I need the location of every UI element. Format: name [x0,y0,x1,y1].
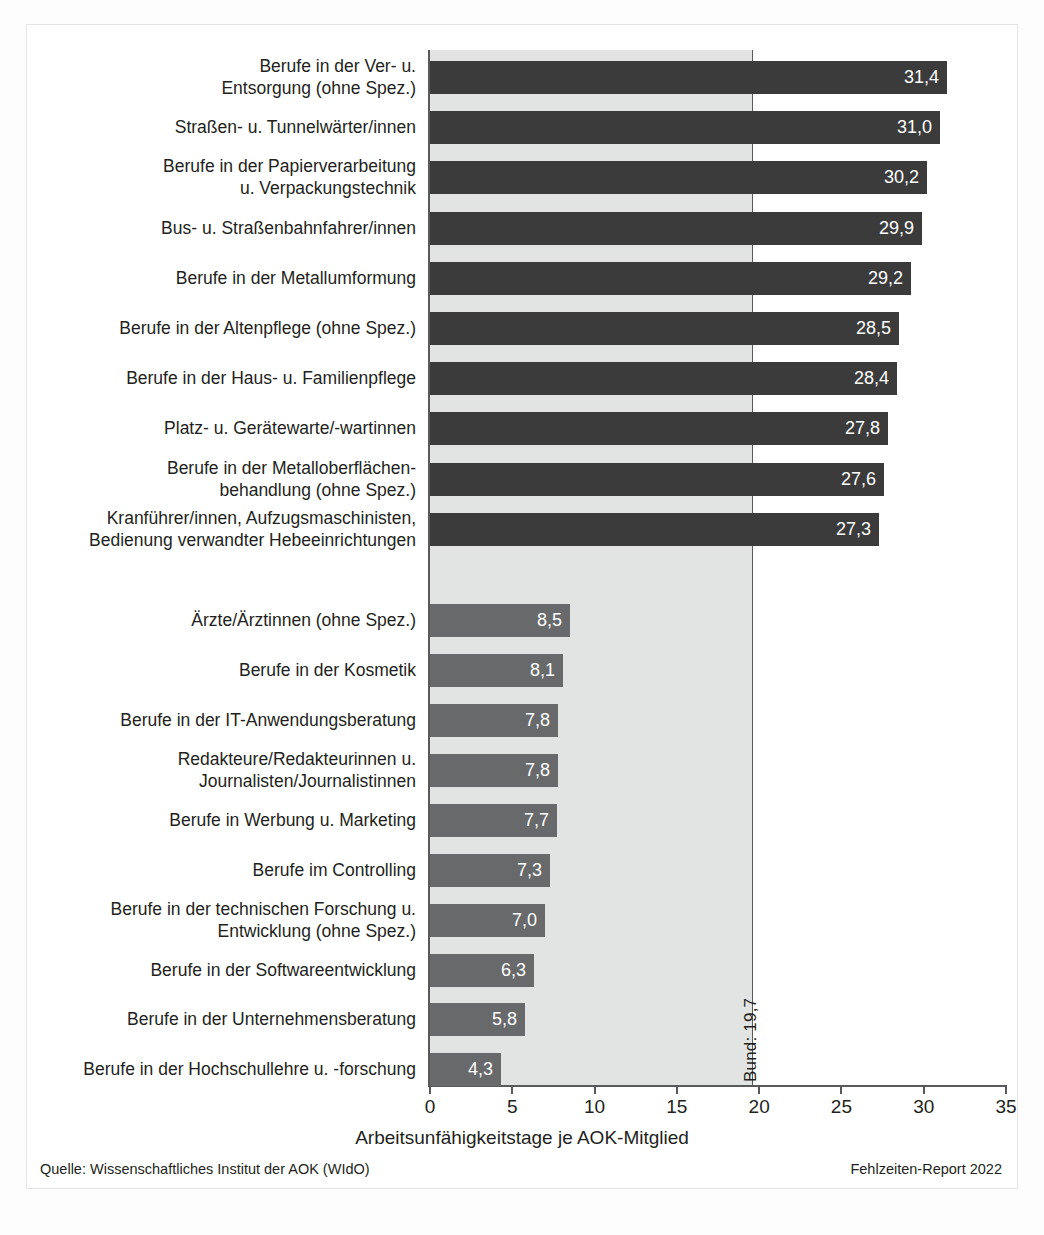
bar: 7,8 [430,754,558,787]
bar: 30,2 [430,161,927,194]
x-axis-tick-label: 10 [575,1096,615,1118]
bar-value-label: 31,4 [904,61,939,94]
bar: 27,6 [430,463,884,496]
bar-value-label: 8,1 [530,654,555,687]
bar-row: Berufe in der Altenpflege (ohne Spez.)28… [0,312,1044,356]
x-axis-tick-label: 30 [904,1096,944,1118]
bar: 28,4 [430,362,897,395]
bar-category-label: Berufe in der Haus- u. Familienpflege [0,367,416,390]
x-axis-tick [1005,1085,1007,1094]
bar: 27,8 [430,412,888,445]
x-axis-tick [676,1085,678,1094]
bar: 28,5 [430,312,899,345]
bar: 31,0 [430,111,940,144]
bar: 6,3 [430,954,534,987]
x-axis-tick-label: 20 [739,1096,779,1118]
bar-row: Berufe in der technischen Forschung u. E… [0,904,1044,948]
bar-row: Berufe in der Softwareentwicklung6,3 [0,954,1044,998]
bar-category-label: Platz- u. Gerätewarte/-wartinnen [0,417,416,440]
bar: 29,2 [430,262,911,295]
x-axis-tick [511,1085,513,1094]
bar: 31,4 [430,61,947,94]
bar-category-label: Redakteure/Redakteurinnen u. Journaliste… [0,748,416,793]
x-axis-tick [840,1085,842,1094]
bar-row: Berufe in der Ver- u. Entsorgung (ohne S… [0,61,1044,105]
bar-category-label: Berufe in der Altenpflege (ohne Spez.) [0,317,416,340]
bar-row: Berufe in der Haus- u. Familienpflege28,… [0,362,1044,406]
x-axis-tick-label: 25 [821,1096,861,1118]
bar-category-label: Berufe in der Metalloberflächen- behandl… [0,457,416,502]
bar-value-label: 7,8 [525,704,550,737]
bar-value-label: 5,8 [492,1003,517,1036]
x-axis-tick [594,1085,596,1094]
bar-row: Berufe in der Metallumformung29,2 [0,262,1044,306]
bar-row: Kranführer/innen, Aufzugsmaschinisten, B… [0,513,1044,557]
bar-category-label: Berufe in der Unternehmensberatung [0,1008,416,1031]
bar-row: Berufe in der Unternehmensberatung5,8 [0,1003,1044,1047]
bar-row: Ärzte/Ärztinnen (ohne Spez.)8,5 [0,604,1044,648]
bar: 8,5 [430,604,570,637]
bar-row: Redakteure/Redakteurinnen u. Journaliste… [0,754,1044,798]
bar-category-label: Bus- u. Straßenbahnfahrer/innen [0,217,416,240]
bar-row: Straßen- u. Tunnelwärter/innen31,0 [0,111,1044,155]
bar-value-label: 31,0 [897,111,932,144]
bar-category-label: Straßen- u. Tunnelwärter/innen [0,116,416,139]
bar-value-label: 4,3 [468,1053,493,1086]
bar-category-label: Berufe in der Kosmetik [0,659,416,682]
x-axis-tick [758,1085,760,1094]
bar: 29,9 [430,212,922,245]
bar-category-label: Berufe in der IT-Anwendungsberatung [0,709,416,732]
bar-category-label: Berufe in Werbung u. Marketing [0,809,416,832]
bar-row: Berufe in der Hochschullehre u. -forschu… [0,1053,1044,1097]
bar: 5,8 [430,1003,525,1036]
bar-value-label: 28,5 [856,312,891,345]
x-axis-tick [923,1085,925,1094]
x-axis-tick-label: 5 [492,1096,532,1118]
bar-category-label: Berufe in der Softwareentwicklung [0,959,416,982]
bar-row: Berufe in der IT-Anwendungsberatung7,8 [0,704,1044,748]
bar: 4,3 [430,1053,501,1086]
x-axis-tick-label: 0 [410,1096,450,1118]
bar-value-label: 7,3 [517,854,542,887]
bar-value-label: 7,7 [524,804,549,837]
bar-category-label: Ärzte/Ärztinnen (ohne Spez.) [0,609,416,632]
x-axis-tick-label: 35 [986,1096,1026,1118]
bar: 27,3 [430,513,879,546]
bar-row: Berufe in der Metalloberflächen- behandl… [0,463,1044,507]
bar-row: Berufe in der Kosmetik8,1 [0,654,1044,698]
x-axis-tick [429,1085,431,1094]
bar-value-label: 27,6 [841,463,876,496]
bar-value-label: 7,8 [525,754,550,787]
bar-category-label: Berufe in der Metallumformung [0,267,416,290]
source-note: Quelle: Wissenschaftliches Institut der … [40,1161,370,1177]
bar: 7,0 [430,904,545,937]
x-axis-tick-label: 15 [657,1096,697,1118]
figure-page: Bund: 19,7 Berufe in der Ver- u. Entsorg… [0,0,1044,1235]
bar-value-label: 6,3 [501,954,526,987]
bar: 7,7 [430,804,557,837]
bar-category-label: Berufe in der technischen Forschung u. E… [0,898,416,943]
bar-value-label: 29,2 [868,262,903,295]
bar-category-label: Berufe im Controlling [0,859,416,882]
bar-category-label: Berufe in der Ver- u. Entsorgung (ohne S… [0,55,416,100]
bar-row: Berufe in der Papierverarbeitung u. Verp… [0,161,1044,205]
bar-row: Platz- u. Gerätewarte/-wartinnen27,8 [0,412,1044,456]
bar-category-label: Berufe in der Hochschullehre u. -forschu… [0,1058,416,1081]
bar: 8,1 [430,654,563,687]
bar: 7,3 [430,854,550,887]
bar-value-label: 29,9 [879,212,914,245]
bar-row: Bus- u. Straßenbahnfahrer/innen29,9 [0,212,1044,256]
x-axis-title: Arbeitsunfähigkeitstage je AOK-Mitglied [0,1127,1044,1149]
bar-category-label: Berufe in der Papierverarbeitung u. Verp… [0,155,416,200]
bar-row: Berufe in Werbung u. Marketing7,7 [0,804,1044,848]
bar-value-label: 28,4 [854,362,889,395]
bar-value-label: 8,5 [537,604,562,637]
bar-value-label: 27,8 [845,412,880,445]
bar-value-label: 30,2 [884,161,919,194]
bar-chart-plot-area: Bund: 19,7 Berufe in der Ver- u. Entsorg… [0,0,1044,1235]
report-note: Fehlzeiten-Report 2022 [850,1161,1002,1177]
bar-value-label: 7,0 [512,904,537,937]
bar: 7,8 [430,704,558,737]
bar-category-label: Kranführer/innen, Aufzugsmaschinisten, B… [0,507,416,552]
bar-value-label: 27,3 [836,513,871,546]
